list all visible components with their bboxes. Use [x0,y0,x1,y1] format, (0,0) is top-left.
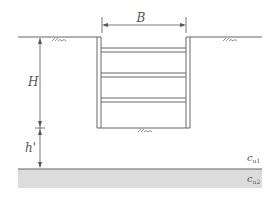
width-label: B [136,11,146,25]
excavation-diagram: B H h' cu1 cu2 [0,0,279,199]
ground-symbol-left-icon [52,38,66,41]
depth-below-label: h' [25,141,36,155]
ground-symbol-bottom-icon [138,129,152,132]
left-wall [97,37,101,128]
strut-2 [101,73,186,77]
depth-dimension [35,38,45,168]
lower-clay-layer [18,169,262,188]
cu1-label: cu1 [247,152,260,164]
right-wall [186,37,190,128]
strut-1 [101,48,186,52]
depth-label: H [27,75,39,89]
ground-symbol-right-icon [223,38,237,41]
strut-3 [101,98,186,102]
